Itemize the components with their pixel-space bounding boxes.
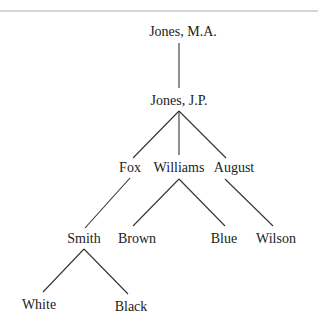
node-brown: Brown <box>118 231 156 246</box>
edge-august-wilson <box>225 179 273 226</box>
node-black: Black <box>115 299 148 314</box>
node-williams: Williams <box>154 160 205 175</box>
node-august: August <box>214 160 255 175</box>
edge-jones_jp-august <box>179 111 226 158</box>
edge-williams-brown <box>133 179 179 226</box>
node-jones-ma: Jones, M.A. <box>149 24 217 39</box>
edge-smith-black <box>84 249 128 294</box>
node-wilson: Wilson <box>256 231 296 246</box>
node-fox: Fox <box>119 160 141 175</box>
node-blue: Blue <box>211 231 237 246</box>
node-jones-jp: Jones, J.P. <box>151 93 208 108</box>
edge-smith-white <box>43 249 84 292</box>
node-white: White <box>22 297 56 312</box>
edge-williams-blue <box>179 179 225 226</box>
edge-jones_jp-fox <box>133 111 179 158</box>
family-tree-diagram: Jones, M.A. Jones, J.P. Fox Williams Aug… <box>0 0 318 330</box>
edge-fox-smith <box>85 178 130 228</box>
node-smith: Smith <box>67 231 100 246</box>
